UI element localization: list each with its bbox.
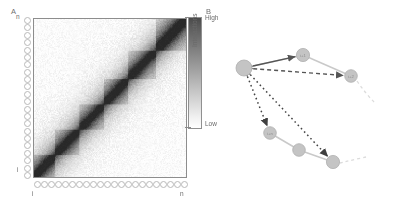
y-axis-bead: [24, 157, 31, 164]
x-axis-bead: [97, 181, 104, 188]
y-axis-bead: [24, 98, 31, 105]
y-axis-bead: [24, 142, 31, 149]
y-axis-bead: [24, 91, 31, 98]
x-axis-bead: [62, 181, 69, 188]
network-node[interactable]: [293, 144, 306, 157]
x-axis-bead: [76, 181, 83, 188]
network-node[interactable]: [236, 60, 252, 76]
x-axis-bead: [125, 181, 132, 188]
x-axis-bead: [146, 181, 153, 188]
y-axis-bead: [24, 32, 31, 39]
y-axis-bead: [24, 83, 31, 90]
y-axis-bead: [24, 172, 31, 179]
x-axis-bead-chain: [34, 179, 188, 190]
x-axis-bead: [160, 181, 167, 188]
x-axis-bead: [83, 181, 90, 188]
network-node-label: i+1: [300, 53, 306, 58]
x-axis-bead: [174, 181, 181, 188]
y-axis-bead: [24, 61, 31, 68]
x-axis-bead: [153, 181, 160, 188]
heatmap-canvas: [34, 19, 186, 177]
x-axis-bead: [132, 181, 139, 188]
x-axis-bead: [55, 181, 62, 188]
colorbar-title: Interactions: [191, 0, 198, 47]
y-axis-bead: [24, 39, 31, 46]
x-axis-bead: [118, 181, 125, 188]
y-axis-bead: [24, 106, 31, 113]
x-axis-bead: [111, 181, 118, 188]
x-axis-right-label: n: [180, 190, 184, 197]
colorbar-bottom-cap: [185, 127, 191, 128]
y-axis-bead: [24, 113, 31, 120]
y-axis-bead: [24, 69, 31, 76]
contact-map-panel: A n i i n High Low Interactions: [0, 0, 200, 206]
y-axis-bead: [24, 135, 31, 142]
y-axis-bead: [24, 120, 31, 127]
x-axis-bead: [104, 181, 111, 188]
y-axis-bead-chain: [22, 17, 33, 179]
x-axis-bead: [139, 181, 146, 188]
y-axis-bead: [24, 76, 31, 83]
x-axis-left-label: i: [32, 190, 33, 197]
y-axis-bead: [24, 17, 31, 24]
x-axis-bead: [90, 181, 97, 188]
interaction-edge-solid: [253, 57, 295, 66]
network-diagram: i+1i+2i+n: [200, 0, 397, 206]
network-node-label: i+2: [348, 74, 354, 79]
x-axis-bead: [167, 181, 174, 188]
x-axis-bead: [69, 181, 76, 188]
y-axis-bead: [24, 165, 31, 172]
interaction-network-panel: B i+1i+2i+n: [200, 0, 397, 206]
backbone-tail: [357, 81, 375, 103]
x-axis-bead: [181, 181, 188, 188]
y-axis-top-label: n: [16, 13, 20, 20]
y-axis-bottom-label: i: [17, 166, 18, 173]
backbone-tail: [340, 157, 366, 163]
y-axis-bead: [24, 150, 31, 157]
network-node[interactable]: [326, 155, 339, 168]
contact-heatmap: [33, 18, 187, 178]
y-axis-bead: [24, 54, 31, 61]
y-axis-bead: [24, 47, 31, 54]
x-axis-bead: [41, 181, 48, 188]
y-axis-bead: [24, 24, 31, 31]
network-node-label: i+n: [267, 131, 273, 136]
figure-root: A n i i n High Low Interactions B: [0, 0, 397, 206]
interaction-edges: [247, 57, 343, 157]
interaction-edge-dashed: [253, 69, 343, 76]
y-axis-bead: [24, 128, 31, 135]
interaction-edge-dotted: [247, 77, 267, 126]
